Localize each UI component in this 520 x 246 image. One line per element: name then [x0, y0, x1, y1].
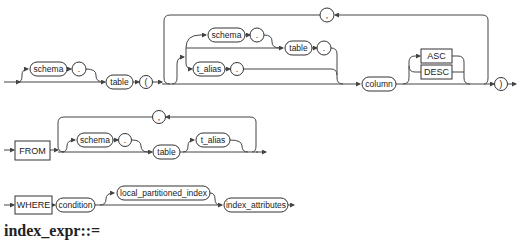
- svg-text:ASC: ASC: [427, 51, 446, 61]
- svg-text:local_partitioned_index: local_partitioned_index: [120, 188, 208, 198]
- svg-text:t_alias: t_alias: [197, 64, 222, 74]
- syntax-diagram: schema . table ( , schema . table . t_al…: [0, 0, 520, 246]
- svg-text:WHERE: WHERE: [17, 200, 51, 210]
- svg-text:DESC: DESC: [424, 67, 450, 77]
- svg-text:.: .: [236, 64, 238, 74]
- row2-node-table: table: [153, 145, 180, 159]
- row1-node-inner-dot2: .: [317, 41, 331, 55]
- row1-node-t-alias-dot: .: [231, 63, 244, 76]
- svg-text:.: .: [78, 64, 80, 74]
- row2-node-t-alias: t_alias: [196, 133, 230, 147]
- row1-node-inner-dot1: .: [250, 28, 264, 42]
- svg-text:,: ,: [326, 10, 328, 20]
- svg-text:schema: schema: [80, 135, 110, 145]
- row1-node-inner-table: table: [285, 41, 312, 55]
- row2-node-comma: ,: [153, 111, 166, 124]
- row1-node-rparen: ): [495, 78, 508, 91]
- row3-node-condition: condition: [56, 198, 95, 212]
- row1-node-table: table: [106, 75, 133, 89]
- row2-node-schema: schema: [77, 133, 113, 147]
- row3-node-index-attributes: index_attributes: [224, 198, 288, 212]
- row1-node-lparen: (: [140, 76, 153, 89]
- svg-text:,: ,: [158, 112, 160, 122]
- row3-node-where: WHERE: [15, 196, 52, 214]
- section-heading: index_expr::=: [4, 222, 100, 240]
- svg-text:table: table: [110, 77, 129, 87]
- row1-node-column: column: [362, 77, 396, 91]
- row1-node-t-alias: t_alias: [193, 62, 225, 76]
- row3-node-local-partitioned-index: local_partitioned_index: [117, 186, 210, 200]
- row1-node-inner-schema: schema: [208, 28, 245, 42]
- svg-text:.: .: [124, 135, 126, 145]
- row1-node-desc: DESC: [421, 65, 452, 79]
- svg-text:column: column: [365, 79, 393, 89]
- row1-node-schema: schema: [30, 62, 67, 76]
- svg-text:): ): [500, 79, 503, 89]
- svg-text:FROM: FROM: [19, 146, 46, 156]
- svg-text:schema: schema: [212, 30, 242, 40]
- svg-text:index_attributes: index_attributes: [226, 200, 286, 210]
- row2-node-dot: .: [119, 134, 132, 147]
- svg-text:(: (: [145, 77, 148, 87]
- svg-text:.: .: [256, 30, 258, 40]
- row1-node-asc: ASC: [421, 49, 452, 63]
- svg-text:schema: schema: [34, 64, 64, 74]
- row2-node-from: FROM: [15, 141, 50, 160]
- svg-text:.: .: [323, 43, 325, 53]
- svg-text:table: table: [157, 147, 176, 157]
- row1-node-dot1: .: [72, 62, 86, 76]
- svg-text:table: table: [289, 43, 308, 53]
- svg-text:condition: condition: [58, 200, 92, 210]
- row1-node-comma: ,: [320, 8, 334, 22]
- svg-text:t_alias: t_alias: [201, 135, 226, 145]
